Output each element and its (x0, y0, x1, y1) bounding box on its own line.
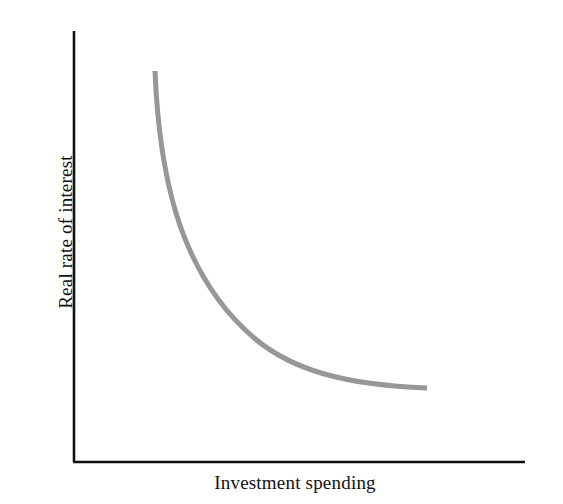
x-axis-label: Investment spending (175, 473, 415, 492)
y-axis-label: Real rate of interest (56, 112, 75, 352)
investment-demand-curve (155, 71, 427, 388)
chart-plot-area (0, 0, 563, 504)
investment-demand-chart: Real rate of interest Investment spendin… (0, 0, 563, 504)
